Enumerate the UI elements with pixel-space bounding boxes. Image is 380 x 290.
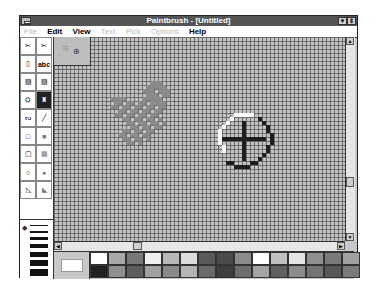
palette-swatch[interactable] [108, 252, 126, 265]
polygon-tool[interactable]: ◺ [20, 181, 36, 199]
canvas-pixel [242, 165, 246, 169]
filled-rounded-box-tool[interactable]: ▩ [36, 145, 52, 163]
palette-swatch[interactable] [180, 252, 198, 265]
canvas-pixel [262, 153, 266, 157]
scroll-down-button[interactable]: ▼ [346, 233, 354, 241]
circle-icon: ○ [26, 169, 30, 176]
canvas-pixel [230, 161, 234, 165]
line-width-3[interactable] [30, 237, 48, 240]
palette-swatch[interactable] [90, 252, 108, 265]
menu-file[interactable]: File [20, 26, 41, 37]
canvas-pixel [230, 117, 234, 121]
line-width-4[interactable] [30, 244, 48, 248]
scroll-left-button[interactable]: ◀ [54, 242, 62, 250]
palette-swatch[interactable] [144, 265, 162, 278]
canvas-pixel [138, 141, 142, 145]
canvas-pixel [242, 157, 246, 161]
palette-swatch[interactable] [342, 252, 360, 265]
brush-tool[interactable]: ♜ [36, 91, 52, 109]
line-width-6[interactable] [30, 260, 48, 266]
menu-edit[interactable]: Edit [43, 26, 66, 37]
scissors-tool[interactable]: ✂ [20, 37, 36, 55]
horizontal-scrollbar[interactable]: ◀ ▶ [54, 241, 345, 251]
polygon-icon: ◺ [26, 186, 31, 194]
rounded-box-icon: ▢ [25, 150, 32, 158]
line-tool[interactable]: ╱ [36, 109, 52, 127]
palette-swatch[interactable] [162, 252, 180, 265]
palette-swatch[interactable] [216, 265, 234, 278]
palette-swatch[interactable] [306, 252, 324, 265]
vertical-scrollbar[interactable]: ▲ ▼ [345, 37, 355, 241]
palette-swatch[interactable] [270, 265, 288, 278]
palette-swatch[interactable] [324, 252, 342, 265]
rounded-box-tool[interactable]: ▢ [20, 145, 36, 163]
palette-swatch[interactable] [90, 265, 108, 278]
palette-swatch[interactable] [108, 265, 126, 278]
curve-tool[interactable]: ᔓ [20, 109, 36, 127]
zoom-preview-thumbnail: ✲ ⊕ [54, 37, 91, 66]
filled-polygon-tool[interactable]: ◣ [36, 181, 52, 199]
eraser-icon: ▨ [41, 78, 48, 86]
line-width-7[interactable] [30, 269, 48, 276]
palette-swatch[interactable] [162, 265, 180, 278]
palette-swatch[interactable] [216, 252, 234, 265]
palette-swatch[interactable] [126, 252, 144, 265]
palette-swatch[interactable] [288, 265, 306, 278]
palette-swatch[interactable] [144, 252, 162, 265]
box-tool[interactable]: □ [20, 127, 36, 145]
canvas-pixel [162, 121, 166, 125]
airbrush-tool[interactable]: ▯ [20, 55, 36, 73]
eraser-tool[interactable]: ▨ [36, 73, 52, 91]
scroll-up-button[interactable]: ▲ [346, 37, 354, 45]
pick-tool[interactable]: ✂ [36, 37, 52, 55]
filled-circle-icon: ● [42, 169, 46, 176]
filled-circle-tool[interactable]: ● [36, 163, 52, 181]
menu-help[interactable]: Help [185, 26, 210, 37]
filled-box-tool[interactable]: ■ [36, 127, 52, 145]
line-width-pointer-icon: ◆ [22, 224, 27, 232]
scroll-right-button[interactable]: ▶ [337, 242, 345, 250]
line-width-2[interactable] [30, 231, 48, 233]
palette-swatch[interactable] [126, 265, 144, 278]
palette-swatch[interactable] [180, 265, 198, 278]
minimize-button[interactable]: ▼ [338, 17, 347, 25]
horizontal-scroll-thumb[interactable] [133, 242, 142, 250]
preview-crosshair-icon: ⊕ [73, 47, 80, 56]
menu-options[interactable]: Options [147, 26, 183, 37]
palette-swatch[interactable] [324, 265, 342, 278]
palette-swatch[interactable] [306, 265, 324, 278]
palette-swatch[interactable] [234, 252, 252, 265]
palette-swatch[interactable] [198, 252, 216, 265]
canvas-pixel [130, 141, 134, 145]
canvas-pixel [246, 165, 250, 169]
canvas-pixel [270, 141, 274, 145]
palette-swatch[interactable] [252, 252, 270, 265]
restore-button[interactable]: ⇕ [347, 17, 356, 25]
palette-swatch[interactable] [252, 265, 270, 278]
palette-swatch[interactable] [342, 265, 360, 278]
menu-view[interactable]: View [68, 26, 94, 37]
system-menu-icon[interactable] [21, 17, 31, 25]
text-tool[interactable]: abc [36, 55, 52, 73]
menu-pick[interactable]: Pick [122, 26, 145, 37]
palette-swatch[interactable] [288, 252, 306, 265]
circle-tool[interactable]: ○ [20, 163, 36, 181]
canvas-pixel [158, 125, 162, 129]
canvas-pixel [266, 149, 270, 153]
pick-scissors-icon: ✂ [41, 42, 47, 50]
canvas-pixel [262, 137, 266, 141]
vertical-scroll-thumb[interactable] [346, 177, 354, 187]
paint-roller-tool[interactable]: ⛭ [20, 91, 36, 109]
line-width-1[interactable] [30, 225, 48, 226]
zoomed-canvas[interactable]: ✲ ⊕ [54, 37, 345, 241]
menu-text[interactable]: Text [97, 26, 120, 37]
canvas-pixel [238, 165, 242, 169]
palette-swatch[interactable] [270, 252, 288, 265]
palette-swatch[interactable] [198, 265, 216, 278]
canvas-pixel [146, 137, 150, 141]
color-eraser-tool[interactable]: ▨ [20, 73, 36, 91]
title-bar[interactable]: Paintbrush - [Untitled] ▼ ⇕ [20, 16, 357, 26]
line-width-5[interactable] [30, 252, 48, 257]
palette-swatch[interactable] [234, 265, 252, 278]
paintbrush-window: Paintbrush - [Untitled] ▼ ⇕ File Edit Vi… [19, 15, 358, 278]
